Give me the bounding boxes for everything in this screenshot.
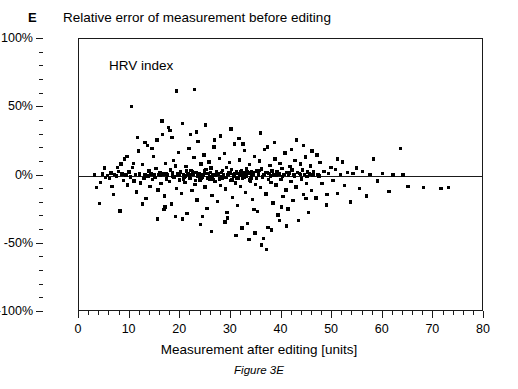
scatter-point <box>141 163 144 166</box>
x-major-tick <box>129 311 130 318</box>
x-tick-label: 10 <box>122 322 136 336</box>
scatter-point <box>136 136 139 139</box>
scatter-point <box>275 173 278 176</box>
scatter-point <box>202 153 205 156</box>
scatter-point <box>168 129 171 132</box>
scatter-point <box>253 231 256 234</box>
scatter-point <box>262 237 265 240</box>
scatter-point <box>422 186 425 189</box>
scatter-point <box>192 172 195 175</box>
scatter-point <box>376 179 379 182</box>
scatter-point <box>280 167 283 170</box>
x-major-tick <box>331 311 332 318</box>
x-minor-tick <box>210 311 211 315</box>
scatter-point <box>155 138 158 141</box>
scatter-point <box>221 169 224 172</box>
x-minor-tick <box>463 311 464 315</box>
scatter-point <box>95 186 98 189</box>
x-minor-tick <box>139 311 140 315</box>
scatter-point <box>273 157 276 160</box>
scatter-point <box>126 183 129 186</box>
scatter-point <box>152 155 155 158</box>
scatter-point <box>325 193 328 196</box>
scatter-point <box>341 160 344 163</box>
scatter-point <box>129 175 132 178</box>
scatter-point <box>327 172 330 175</box>
scatter-point <box>439 187 442 190</box>
scatter-point <box>269 181 272 184</box>
figure-caption: Figure 3E <box>0 364 518 376</box>
scatter-point <box>346 171 349 174</box>
scatter-point <box>190 189 193 192</box>
scatter-point <box>163 194 166 197</box>
scatter-point <box>210 194 213 197</box>
scatter-point <box>234 181 237 184</box>
x-minor-tick <box>98 311 99 315</box>
x-minor-tick <box>311 311 312 315</box>
scatter-point <box>336 157 339 160</box>
scatter-point <box>199 162 202 165</box>
scatter-point <box>181 217 184 220</box>
scatter-point <box>196 140 199 143</box>
scatter-point <box>259 131 262 134</box>
scatter-point <box>233 142 236 145</box>
scatter-point <box>310 149 313 152</box>
scatter-point <box>201 215 204 218</box>
scatter-point <box>289 180 292 183</box>
scatter-point <box>372 157 375 160</box>
x-minor-tick <box>453 311 454 315</box>
scatter-point <box>243 171 246 174</box>
scatter-point <box>281 175 284 178</box>
scatter-point <box>284 188 287 191</box>
x-tick-label: 30 <box>223 322 237 336</box>
scatter-point <box>339 173 342 176</box>
scatter-point <box>146 174 149 177</box>
scatter-point <box>273 141 276 144</box>
scatter-point <box>223 220 226 223</box>
scatter-point <box>305 182 308 185</box>
x-axis-title: Measurement after editing [units] <box>0 342 518 357</box>
scatter-point <box>226 216 229 219</box>
scatter-point <box>406 185 409 188</box>
scatter-point <box>249 176 252 179</box>
scatter-point <box>295 138 298 141</box>
scatter-point <box>120 172 123 175</box>
scatter-point <box>240 226 243 229</box>
x-minor-tick <box>473 311 474 315</box>
scatter-point <box>211 176 214 179</box>
scatter-point <box>247 238 250 241</box>
scatter-point <box>179 171 182 174</box>
scatter-point <box>192 156 195 159</box>
scatter-point <box>305 175 308 178</box>
scatter-point <box>239 185 242 188</box>
scatter-point <box>225 166 228 169</box>
scatter-point <box>230 178 233 181</box>
scatter-point <box>156 217 159 220</box>
scatter-point <box>122 179 125 182</box>
scatter-point <box>139 181 142 184</box>
scatter-point <box>116 166 119 169</box>
scatter-point <box>297 219 300 222</box>
scatter-point <box>187 172 190 175</box>
scatter-point <box>203 185 206 188</box>
x-minor-tick <box>341 311 342 315</box>
scatter-point <box>261 175 264 178</box>
scatter-point <box>270 228 273 231</box>
scatter-point <box>199 223 202 226</box>
scatter-point <box>237 137 240 140</box>
scatter-point <box>304 197 307 200</box>
scatter-point <box>331 179 334 182</box>
scatter-point <box>115 174 118 177</box>
scatter-point <box>283 151 286 154</box>
scatter-point <box>299 173 302 176</box>
x-minor-tick <box>291 311 292 315</box>
scatter-point <box>132 179 135 182</box>
scatter-point <box>110 185 113 188</box>
x-minor-tick <box>422 311 423 315</box>
scatter-point <box>189 133 192 136</box>
scatter-point <box>98 202 101 205</box>
scatter-point <box>184 165 187 168</box>
scatter-point <box>259 186 262 189</box>
scatter-point <box>112 193 115 196</box>
scatter-point <box>329 166 332 169</box>
